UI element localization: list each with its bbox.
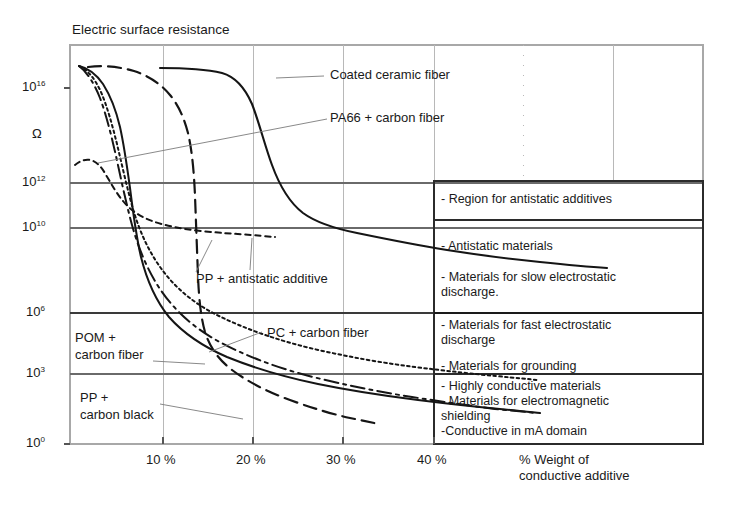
region-2-line-2: - Materials for slow electrostatic: [441, 270, 616, 285]
series-pp-antistatic-additive: [75, 160, 275, 237]
leader-pp-carbon-black: [160, 404, 243, 419]
leader-pp-antistatic-additive-b: [250, 238, 252, 270]
callout-pa66-carbon-fiber: PA66 + carbon fiber: [330, 110, 444, 126]
leader-pa66-carbon-fiber: [98, 119, 327, 163]
y-axis-unit-omega: Ω: [32, 126, 42, 142]
region-2-line-3: discharge.: [441, 285, 499, 300]
x-tick-10: 10 %: [146, 452, 176, 468]
leader-pp-antistatic-additive-a: [196, 240, 212, 272]
region-2-line-1: - Antistatic materials: [441, 239, 553, 254]
region-3-line-1: - Materials for fast electrostatic: [441, 318, 611, 333]
leader-coated-ceramic-fiber: [276, 76, 324, 78]
x-axis-title-line1: % Weight of: [519, 452, 589, 468]
y-tick-1e12: 1012: [22, 174, 45, 190]
callout-pp-carbon-black-line1: PP +: [80, 390, 108, 406]
y-axis-ticks: [64, 88, 70, 444]
callout-pc-carbon-fiber: PC + carbon fiber: [267, 325, 369, 341]
callout-coated-ceramic-fiber: Coated ceramic fiber: [330, 67, 450, 83]
plot-frame: [70, 45, 703, 444]
callout-pp-carbon-black-line2: carbon black: [80, 407, 154, 423]
region-4-line-3: shielding: [441, 409, 490, 424]
y-tick-1e6: 106: [26, 304, 45, 320]
x-tick-40: 40 %: [417, 452, 447, 468]
region-1-line-1: - Region for antistatic additives: [441, 192, 612, 207]
callout-pp-antistatic-additive: PP + antistatic additive: [196, 271, 328, 287]
x-tick-20: 20 %: [236, 452, 266, 468]
y-tick-1e0: 100: [26, 435, 45, 451]
x-tick-30: 30 %: [326, 452, 356, 468]
leader-pom-carbon-fiber: [153, 361, 205, 364]
callout-pom-carbon-fiber-line1: POM +: [75, 330, 116, 346]
callout-pom-carbon-fiber-line2: carbon fiber: [75, 347, 144, 363]
y-tick-1e10: 1010: [22, 219, 45, 235]
callout-leader-lines: [98, 76, 327, 419]
region-4-line-4: -Conductive in mA domain: [441, 424, 587, 439]
region-4-line-1: - Highly conductive materials: [441, 379, 601, 394]
series-coated-ceramic-fiber: [160, 68, 607, 268]
chart-canvas: Electric surface resistance: [0, 0, 738, 509]
y-tick-1e3: 103: [26, 365, 45, 381]
region-3-line-2: discharge: [441, 333, 495, 348]
region-4-line-2: - Materials for electromagnetic: [441, 394, 609, 409]
y-tick-1e16: 1016: [22, 79, 45, 95]
region-3-line-3: - Materials for grounding: [441, 359, 576, 374]
x-axis-title-line2: conductive additive: [519, 468, 630, 484]
x-axis-ticks: [163, 437, 434, 444]
